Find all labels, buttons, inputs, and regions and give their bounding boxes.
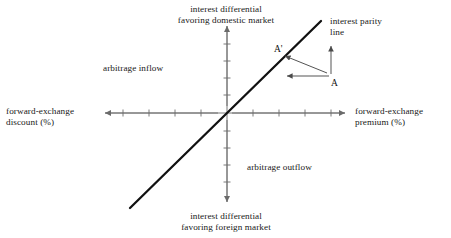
axis-label-vertical-top-line2: favoring domestic market — [178, 15, 274, 25]
axis-label-vertical-bottom: interest differentialfavoring foreign ma… — [146, 211, 306, 234]
axis-label-horizontal-right-line2: premium (%) — [355, 117, 405, 127]
quadrant-label-arbitrage-outflow: arbitrage outflow — [247, 162, 357, 173]
axis-label-horizontal-left-line2: discount (%) — [6, 117, 54, 127]
interest-parity-diagram: interest differentialfavoring domestic m… — [0, 0, 451, 238]
quadrant-label-arbitrage-inflow: arbitrage inflow — [103, 63, 213, 74]
interest-parity-line — [130, 21, 321, 208]
axis-label-horizontal-left: forward-exchangediscount (%) — [6, 106, 102, 129]
interest-parity-line-label-line2: line — [330, 27, 344, 37]
axis-label-vertical-bottom-line2: favoring foreign market — [181, 222, 271, 232]
axis-label-vertical-top-line1: interest differential — [190, 4, 262, 14]
point-label-a: A — [331, 78, 338, 88]
interest-parity-line-label: interest parityline — [330, 16, 420, 39]
interest-parity-line-label-line1: interest parity — [330, 16, 382, 26]
axis-label-horizontal-right: forward-exchangepremium (%) — [355, 106, 451, 129]
adjustment-arrow-diagonal — [285, 56, 327, 73]
axis-label-vertical-top: interest differentialfavoring domestic m… — [146, 4, 306, 27]
axis-label-vertical-bottom-line1: interest differential — [190, 211, 262, 221]
axis-label-horizontal-left-line1: forward-exchange — [6, 106, 74, 116]
point-label-a-prime: A' — [274, 44, 283, 54]
axis-label-horizontal-right-line1: forward-exchange — [355, 106, 423, 116]
